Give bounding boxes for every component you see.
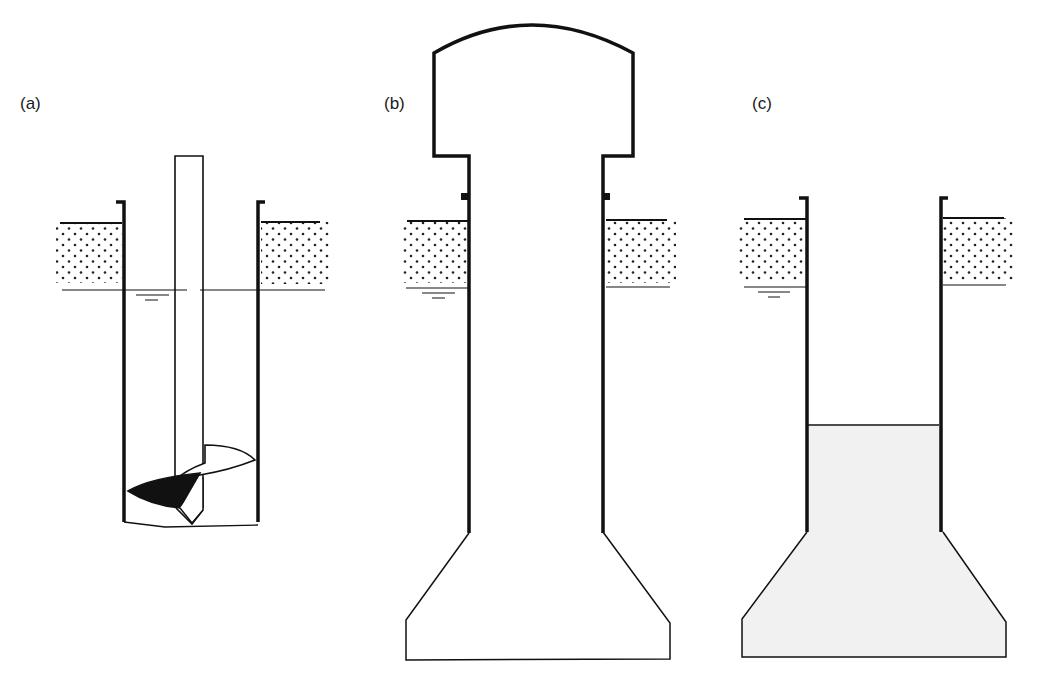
soil-left-c	[738, 219, 805, 282]
soil-left-a	[56, 223, 122, 283]
concrete-fill	[742, 426, 1006, 657]
pile-construction-diagram: (a) (b) (c)	[0, 0, 1051, 688]
soil-right-b	[606, 221, 676, 283]
soil-right-c	[943, 218, 1013, 280]
panel-c-drawing	[738, 198, 1013, 657]
panel-a-drawing	[56, 156, 331, 527]
soil-right-a	[261, 222, 331, 284]
panel-b-drawing	[401, 25, 676, 660]
soil-left-b	[401, 221, 467, 283]
